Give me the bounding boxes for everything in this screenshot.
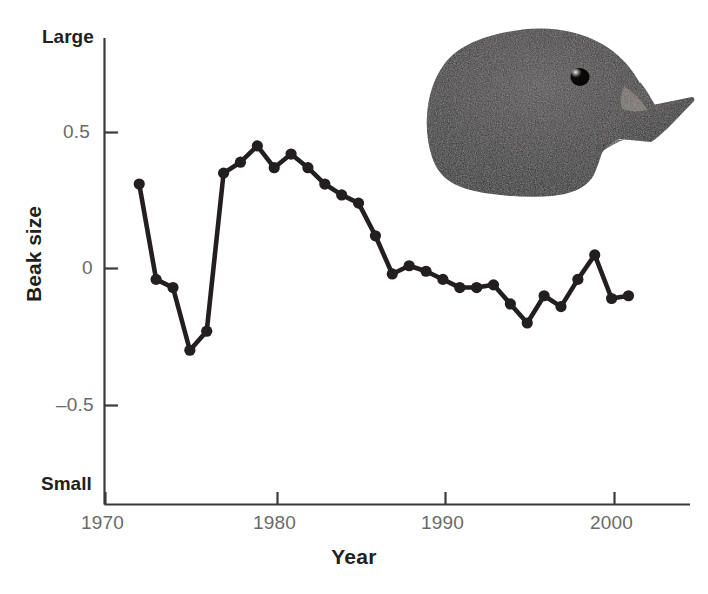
data-point bbox=[353, 198, 364, 209]
data-point bbox=[454, 282, 465, 293]
data-point bbox=[572, 274, 583, 285]
y-axis-bottom-label: Small bbox=[41, 473, 92, 495]
finch-beak-highlight bbox=[621, 86, 648, 111]
x-axis-title: Year bbox=[0, 545, 708, 569]
data-point bbox=[201, 326, 212, 337]
data-point bbox=[235, 157, 246, 168]
finch-jawline bbox=[596, 139, 626, 153]
data-point bbox=[606, 293, 617, 304]
data-point bbox=[134, 178, 145, 189]
data-point bbox=[437, 274, 448, 285]
y-tick-label-0: 0 bbox=[82, 257, 93, 279]
data-point bbox=[539, 290, 550, 301]
data-point bbox=[252, 140, 263, 151]
finch-beak-size-figure: Large Small 0.5 0 –0.5 1970 1980 1990 20… bbox=[0, 0, 708, 594]
x-tick-label-1970: 1970 bbox=[81, 512, 124, 534]
data-point bbox=[285, 148, 296, 159]
data-point bbox=[522, 317, 533, 328]
data-point bbox=[269, 162, 280, 173]
data-point bbox=[319, 178, 330, 189]
data-point bbox=[488, 279, 499, 290]
y-tick-label-0.5: 0.5 bbox=[63, 121, 90, 143]
series-line bbox=[139, 146, 628, 350]
data-point bbox=[471, 282, 482, 293]
data-point bbox=[302, 162, 313, 173]
x-tick-label-2000: 2000 bbox=[590, 512, 633, 534]
y-axis-ticks bbox=[105, 133, 119, 406]
data-point bbox=[505, 298, 516, 309]
y-axis-title: Beak size bbox=[22, 194, 46, 314]
data-point bbox=[151, 274, 162, 285]
y-tick-label--0.5: –0.5 bbox=[56, 394, 94, 416]
data-point bbox=[336, 189, 347, 200]
finch-eye-highlight bbox=[572, 69, 583, 79]
data-point bbox=[387, 268, 398, 279]
data-point bbox=[184, 345, 195, 356]
finch-beak bbox=[621, 82, 693, 141]
data-point bbox=[420, 266, 431, 277]
data-point bbox=[167, 282, 178, 293]
x-tick-label-1990: 1990 bbox=[421, 512, 464, 534]
data-point bbox=[555, 301, 566, 312]
x-tick-label-1980: 1980 bbox=[253, 512, 296, 534]
darwin-finch-head-photo bbox=[427, 29, 695, 197]
finch-head-silhouette bbox=[427, 29, 695, 197]
finch-eye bbox=[571, 68, 590, 86]
data-series-beak-size bbox=[134, 140, 634, 356]
chart-canvas bbox=[0, 0, 708, 594]
data-point bbox=[218, 168, 229, 179]
data-point bbox=[589, 249, 600, 260]
data-point bbox=[623, 290, 634, 301]
y-axis-top-label: Large bbox=[42, 26, 94, 48]
data-point bbox=[404, 260, 415, 271]
data-point bbox=[370, 230, 381, 241]
x-axis-ticks bbox=[106, 492, 615, 505]
